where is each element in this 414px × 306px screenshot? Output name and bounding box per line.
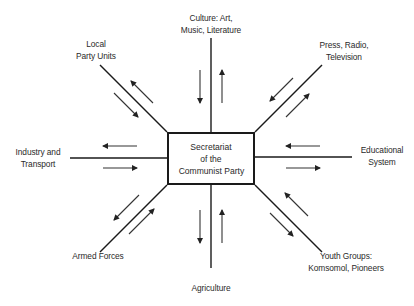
node-local-party-units: Local Party Units (61, 38, 131, 62)
node-culture: Culture: Art, Music, Literature (167, 12, 255, 36)
secretariat-box: Secretariat of the Communist Party (167, 132, 255, 185)
line-press (255, 65, 322, 132)
secretariat-line-3: Communist Party (178, 165, 244, 177)
line-youth (255, 185, 322, 252)
arrow-youth-away (270, 213, 293, 236)
node-industry-transport: Industry and Transport (12, 146, 65, 170)
line-armed-forces (100, 185, 167, 252)
node-youth-groups: Youth Groups: Komsomol, Pioneers (302, 250, 390, 274)
arrow-armed-forces-toward (129, 209, 154, 234)
line-local-party (100, 65, 167, 132)
secretariat-line-1: Secretariat (190, 141, 231, 153)
node-educational-system: Educational System (356, 144, 409, 168)
node-press-radio-tv: Press, Radio, Television (305, 39, 382, 63)
node-armed-forces: Armed Forces (66, 250, 129, 262)
secretariat-line-2: of the (200, 153, 221, 165)
node-agriculture: Agriculture (180, 282, 242, 294)
arrow-youth-toward (285, 193, 308, 216)
arrow-local-party-toward (114, 93, 138, 117)
